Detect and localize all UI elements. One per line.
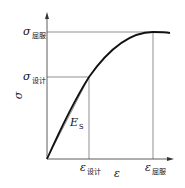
design-strain-label: ε设计: [80, 162, 101, 176]
epsilon-symbol: ε: [114, 167, 120, 180]
design-subscript: 设计: [87, 168, 101, 176]
yield-subscript: 屈服: [152, 168, 166, 176]
yield-stress-label: σ屈服: [23, 26, 46, 40]
epsilon-symbol: ε: [80, 161, 86, 174]
sigma-symbol: σ: [12, 92, 25, 100]
epsilon-symbol: ε: [145, 161, 151, 174]
stress-strain-curve: [47, 32, 170, 159]
e-symbol: E: [70, 116, 78, 129]
sigma-symbol: σ: [23, 25, 31, 38]
secant-modulus-label: ES: [70, 117, 83, 131]
yield-subscript: 屈服: [32, 32, 46, 40]
x-axis-label: ε: [114, 168, 120, 179]
sigma-symbol: σ: [23, 70, 31, 83]
y-axis-arrow-icon: [45, 12, 49, 19]
yield-strain-label: ε屈服: [145, 162, 166, 176]
x-axis-arrow-icon: [167, 157, 174, 161]
design-stress-label: σ设计: [23, 71, 46, 85]
s-subscript: S: [79, 123, 83, 131]
design-subscript: 设计: [32, 77, 46, 85]
y-axis-label: σ: [13, 92, 24, 100]
